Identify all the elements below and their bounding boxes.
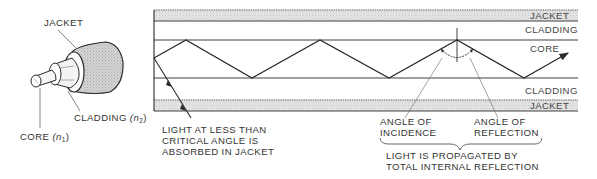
layer-label-bottom-jacket: JACKET: [530, 100, 569, 111]
fiber-cladding-label: CLADDING (n2): [74, 112, 147, 124]
absorbed-annotation-line2: CRITICAL ANGLE IS: [162, 135, 259, 146]
incidence-label-line1: ANGLE OF: [380, 116, 432, 127]
layer-label-core: CORE: [530, 43, 559, 54]
layer-label-top-cladding: CLADDING: [525, 24, 578, 35]
fiber-jacket-label: JACKET: [44, 17, 83, 28]
reflection-label-line2: REFLECTION: [474, 127, 539, 138]
bottom-jacket-band: [154, 100, 578, 111]
fiber-core-label: CORE (n1): [20, 131, 69, 143]
layer-label-bottom-cladding: CLADDING: [525, 85, 578, 96]
top-jacket-band: [154, 10, 578, 21]
cladding-leader: [68, 91, 80, 111]
absorbed-annotation-line3: ABSORBED IN JACKET: [162, 146, 274, 157]
jacket-leader: [58, 30, 77, 49]
fiber-optic-diagram: JACKET CLADDING (n2) CORE (n1): [0, 0, 597, 179]
grouping-brace: [380, 138, 542, 150]
reflection-label-line1: ANGLE OF: [474, 116, 526, 127]
propagated-light-ray: [154, 40, 568, 78]
propagation-annotation-line1: LIGHT IS PROPAGATED BY: [386, 150, 518, 161]
layer-label-top-jacket: JACKET: [530, 10, 569, 21]
absorbed-annotation-line1: LIGHT AT LESS THAN: [162, 124, 267, 135]
propagation-annotation-line2: TOTAL INTERNAL REFLECTION: [386, 161, 539, 172]
fiber-cross-section: JACKET CLADDING CORE CLADDING JACKET LIG…: [154, 10, 578, 172]
incidence-label-line2: INCIDENCE: [380, 127, 436, 138]
fiber-3d-illustration: JACKET CLADDING (n2) CORE (n1): [20, 17, 147, 143]
